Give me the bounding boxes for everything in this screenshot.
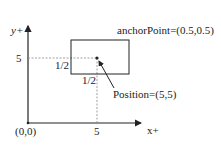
position-label: Position=(5,5)	[113, 88, 177, 101]
y-axis-label: y+	[10, 24, 23, 36]
half-width-label: 1/2	[82, 74, 96, 86]
anchor-point-label: anchorPoint=(0.5,0.5)	[117, 24, 214, 37]
coordinate-diagram: y+ x+ (0,0) 5 5 1/2 1/2 anchorPoint=(0.5…	[0, 0, 221, 145]
anchor-dot	[95, 56, 98, 59]
y-tick-label: 5	[16, 52, 22, 64]
origin-dot	[27, 122, 30, 125]
node-rectangle	[71, 40, 129, 74]
origin-label: (0,0)	[15, 125, 36, 138]
half-height-label: 1/2	[55, 59, 69, 71]
x-tick-label: 5	[94, 125, 100, 137]
x-axis-label: x+	[147, 124, 159, 136]
